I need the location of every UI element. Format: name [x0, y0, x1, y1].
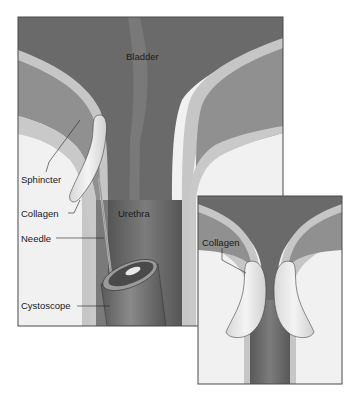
label-bladder: Bladder [126, 51, 159, 62]
collagen-injection-diagram: Bladder Sphincter Collagen Urethra Needl… [0, 0, 355, 401]
label-urethra: Urethra [118, 208, 150, 219]
label-collagen: Collagen [21, 208, 59, 219]
inset-panel: Collagen [198, 196, 342, 384]
label-sphincter: Sphincter [21, 174, 61, 185]
inset-label-collagen: Collagen [202, 237, 240, 248]
label-needle: Needle [21, 233, 51, 244]
label-cystoscope: Cystoscope [21, 300, 71, 311]
